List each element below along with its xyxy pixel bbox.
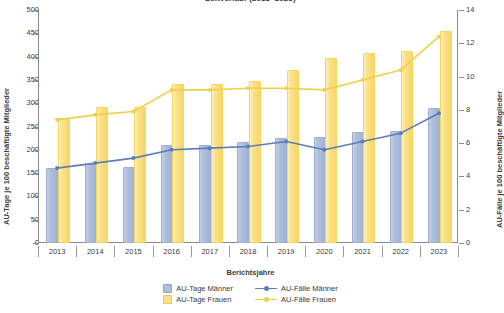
line-marker — [246, 144, 250, 148]
line-marker — [93, 161, 97, 165]
legend-item[interactable]: AU-Tage Frauen — [163, 295, 233, 304]
y-right-tick-mark — [459, 77, 464, 78]
line-marker — [246, 86, 250, 90]
legend-label: AU-Fälle Männer — [281, 284, 338, 293]
y-right-tick-label: 4 — [466, 172, 496, 180]
legend-item[interactable]: AU-Fälle Frauen — [255, 295, 338, 304]
y-right-tick-label: 12 — [466, 39, 496, 47]
legend-item[interactable]: AU-Tage Männer — [163, 284, 233, 293]
y-right-tick-label: 8 — [466, 106, 496, 114]
x-axis-tick-label: 2015 — [114, 247, 152, 256]
x-axis-separator — [191, 246, 192, 257]
line-marker — [361, 139, 365, 143]
legend-label: AU-Tage Frauen — [176, 295, 231, 304]
y-right-tick-label: 10 — [466, 73, 496, 81]
line-marker — [208, 88, 212, 92]
y-right-tick-label: 6 — [466, 139, 496, 147]
y-axis-left-title: AU-Tage je 100 beschäftigte Mitglieder — [2, 88, 11, 225]
line-marker — [55, 118, 59, 122]
line-marker — [322, 148, 326, 152]
legend-line-icon — [255, 296, 277, 303]
line-marker — [208, 146, 212, 150]
x-axis-separator — [38, 246, 39, 257]
line-marker — [322, 88, 326, 92]
line-group — [38, 10, 458, 243]
x-axis-tick-label: 2022 — [382, 247, 420, 256]
line-marker — [170, 88, 174, 92]
legend-item[interactable]: AU-Fälle Männer — [255, 284, 338, 293]
legend-line-icon — [255, 285, 277, 292]
y-axis-right-title: AU-Fälle je 100 beschäftigte Mitglieder — [495, 91, 504, 228]
line-path — [57, 113, 439, 168]
chart-legend: AU-Tage MännerAU-Fälle MännerAU-Tage Fra… — [0, 284, 501, 304]
line-marker — [55, 166, 59, 170]
line-marker — [284, 139, 288, 143]
x-axis-tick-label: 2014 — [76, 247, 114, 256]
line-marker — [437, 111, 441, 115]
x-axis-separator — [153, 246, 154, 257]
line-path — [57, 37, 439, 120]
y-right-tick-mark — [459, 43, 464, 44]
y-right-tick-mark — [459, 176, 464, 177]
y-right-tick-mark — [459, 110, 464, 111]
x-axis-title: Berichtsjahre — [0, 268, 501, 277]
y-right-tick-label: 2 — [466, 206, 496, 214]
x-axis-tick-label: 2017 — [191, 247, 229, 256]
x-axis-separator — [229, 246, 230, 257]
y-right-tick-mark — [459, 10, 464, 11]
line-marker — [437, 35, 441, 39]
y-right-tick-label: 14 — [466, 6, 496, 14]
line-marker — [399, 131, 403, 135]
x-axis-separator — [420, 246, 421, 257]
x-axis-tick-label: 2016 — [153, 247, 191, 256]
chart-title: Zeitverlauf (2013–2023) — [0, 0, 501, 3]
legend-swatch-icon — [163, 295, 172, 304]
y-left-tick-mark — [33, 243, 38, 244]
y-right-tick-mark — [459, 210, 464, 211]
line-marker — [170, 148, 174, 152]
x-axis-separator — [267, 246, 268, 257]
x-axis-separator — [305, 246, 306, 257]
legend-label: AU-Tage Männer — [176, 284, 233, 293]
y-right-tick-mark — [459, 243, 464, 244]
x-axis-tick-label: 2013 — [38, 247, 76, 256]
line-marker — [361, 78, 365, 82]
x-axis-separator — [458, 246, 459, 257]
line-marker — [131, 110, 135, 114]
x-axis-separator — [114, 246, 115, 257]
x-axis-tick-label: 2018 — [229, 247, 267, 256]
legend-swatch-icon — [163, 284, 172, 293]
y-right-tick-mark — [459, 143, 464, 144]
x-axis-tick-label: 2019 — [267, 247, 305, 256]
x-axis-tick-label: 2020 — [305, 247, 343, 256]
x-axis-tick-label: 2021 — [343, 247, 381, 256]
legend-label: AU-Fälle Frauen — [281, 295, 336, 304]
x-axis-separator — [76, 246, 77, 257]
line-marker — [131, 156, 135, 160]
x-axis-separator — [343, 246, 344, 257]
line-marker — [284, 86, 288, 90]
x-axis-separator — [382, 246, 383, 257]
x-axis-tick-label: 2023 — [420, 247, 458, 256]
plot-area — [38, 10, 458, 243]
line-marker — [399, 68, 403, 72]
line-marker — [93, 113, 97, 117]
y-right-tick-label: 0 — [466, 239, 496, 247]
